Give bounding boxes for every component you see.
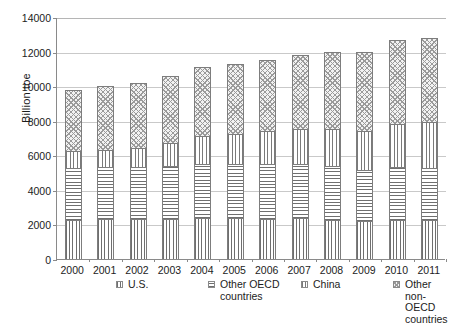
bar-segment-oecd[interactable]	[421, 168, 438, 220]
bar-stack[interactable]	[227, 64, 244, 259]
y-tick-mark	[53, 225, 57, 226]
chart-legend: U.S.Other OECD countriesChinaOther non-O…	[56, 279, 453, 313]
bar-segment-oecd[interactable]	[65, 168, 82, 220]
x-tick-mark	[122, 259, 123, 262]
bar-stack[interactable]	[194, 67, 211, 259]
bar-segment-nonoecd[interactable]	[421, 38, 438, 122]
bar-segment-oecd[interactable]	[194, 164, 211, 218]
gridline	[57, 53, 446, 54]
bar-segment-nonoecd[interactable]	[324, 52, 341, 130]
bar-segment-nonoecd[interactable]	[162, 76, 179, 143]
bar-segment-oecd[interactable]	[324, 166, 341, 219]
bar-stack[interactable]	[421, 38, 438, 259]
bar-segment-nonoecd[interactable]	[130, 83, 147, 148]
bar-segment-us[interactable]	[292, 218, 309, 259]
y-tick-label: 2000	[28, 219, 51, 231]
legend-item[interactable]: U.S.	[116, 279, 148, 291]
y-tick-label: 14000	[22, 12, 51, 24]
bar-segment-us[interactable]	[97, 219, 114, 259]
bar-segment-china[interactable]	[292, 129, 309, 164]
gridline	[57, 122, 446, 123]
y-tick-mark	[53, 191, 57, 192]
plot-area: 02000400060008000100001200014000	[56, 18, 445, 260]
bar-segment-china[interactable]	[97, 150, 114, 168]
bar-segment-china[interactable]	[65, 151, 82, 168]
legend-swatch-nonoecd	[393, 281, 400, 288]
bar-segment-nonoecd[interactable]	[292, 55, 309, 128]
bar-segment-us[interactable]	[194, 218, 211, 259]
legend-item[interactable]: Other OECD countries	[208, 279, 280, 302]
bar-segment-oecd[interactable]	[227, 164, 244, 218]
y-tick-label: 10000	[22, 81, 51, 93]
bar-segment-oecd[interactable]	[292, 164, 309, 218]
bar-stack[interactable]	[162, 76, 179, 259]
bar-segment-nonoecd[interactable]	[194, 67, 211, 136]
legend-swatch-us	[116, 281, 123, 288]
y-tick-label: 6000	[28, 150, 51, 162]
legend-swatch-oecd	[208, 281, 215, 288]
bar-stack[interactable]	[259, 60, 276, 259]
legend-item[interactable]: Other non-OECD countries	[393, 279, 453, 325]
bar-segment-china[interactable]	[389, 124, 406, 167]
bar-segment-us[interactable]	[162, 219, 179, 259]
x-tick-mark	[316, 259, 317, 262]
bar-segment-oecd[interactable]	[259, 164, 276, 218]
legend-label: U.S.	[128, 279, 148, 291]
y-tick-label: 8000	[28, 116, 51, 128]
bar-segment-china[interactable]	[130, 148, 147, 167]
bar-segment-oecd[interactable]	[130, 167, 147, 219]
bar-segment-nonoecd[interactable]	[227, 64, 244, 134]
bar-segment-us[interactable]	[259, 219, 276, 259]
y-tick-mark	[53, 53, 57, 54]
bar-segment-china[interactable]	[194, 136, 211, 163]
legend-label: China	[313, 279, 340, 291]
bar-segment-us[interactable]	[389, 220, 406, 259]
x-tick-mark	[381, 259, 382, 262]
bar-segment-oecd[interactable]	[356, 170, 373, 221]
bar-segment-nonoecd[interactable]	[389, 40, 406, 125]
bar-stack[interactable]	[65, 90, 82, 259]
bar-segment-us[interactable]	[227, 218, 244, 259]
x-tick-mark	[154, 259, 155, 262]
gridline	[57, 18, 446, 19]
legend-label: Other non-OECD countries	[405, 279, 453, 325]
bar-segment-us[interactable]	[65, 220, 82, 259]
legend-item[interactable]: China	[301, 279, 340, 291]
bar-segment-oecd[interactable]	[97, 167, 114, 219]
bar-segment-nonoecd[interactable]	[356, 52, 373, 131]
x-tick-mark	[414, 259, 415, 262]
bar-segment-us[interactable]	[324, 220, 341, 259]
x-tick-mark	[89, 259, 90, 262]
y-tick-label: 4000	[28, 185, 51, 197]
y-tick-mark	[53, 156, 57, 157]
bar-segment-china[interactable]	[324, 129, 341, 166]
bar-stack[interactable]	[324, 52, 341, 259]
bar-segment-us[interactable]	[356, 221, 373, 259]
bar-stack[interactable]	[356, 52, 373, 259]
bar-segment-china[interactable]	[356, 131, 373, 170]
bar-segment-nonoecd[interactable]	[259, 60, 276, 131]
bar-segment-china[interactable]	[259, 131, 276, 164]
bar-segment-oecd[interactable]	[389, 167, 406, 220]
bar-segment-china[interactable]	[227, 134, 244, 164]
bar-stack[interactable]	[389, 40, 406, 260]
x-tick-mark	[349, 259, 350, 262]
x-tick-mark	[446, 259, 447, 262]
bar-segment-china[interactable]	[421, 122, 438, 168]
bar-segment-nonoecd[interactable]	[65, 90, 82, 151]
gridline	[57, 191, 446, 192]
x-tick-mark	[187, 259, 188, 262]
bar-stack[interactable]	[130, 83, 147, 259]
bar-stack[interactable]	[292, 55, 309, 259]
bar-segment-oecd[interactable]	[162, 166, 179, 219]
legend-swatch-china	[301, 281, 308, 288]
y-tick-label: 0	[45, 254, 51, 266]
bar-segment-us[interactable]	[421, 220, 438, 259]
bar-segment-nonoecd[interactable]	[97, 86, 114, 150]
bar-segment-us[interactable]	[130, 219, 147, 259]
y-tick-mark	[53, 122, 57, 123]
x-tick-mark	[252, 259, 253, 262]
x-tick-mark	[219, 259, 220, 262]
bar-segment-china[interactable]	[162, 143, 179, 166]
bar-stack[interactable]	[97, 86, 114, 259]
